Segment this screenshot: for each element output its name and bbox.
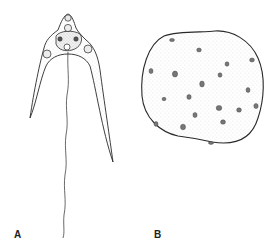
basal-body [64, 44, 70, 50]
nucleus [193, 112, 197, 117]
nucleus [237, 108, 242, 112]
nucleus [162, 97, 166, 100]
flagellum [63, 52, 68, 238]
left-nucleus [43, 50, 51, 58]
panel-label-a: A [14, 229, 21, 240]
right-dark-granule [74, 37, 78, 41]
right-nucleus [84, 45, 92, 53]
nucleus [154, 122, 158, 127]
nucleus [170, 38, 175, 41]
nucleus [250, 58, 255, 62]
nucleus [254, 103, 258, 108]
illustration [0, 0, 277, 250]
panel-label-b: B [154, 229, 161, 240]
nucleus [187, 95, 191, 100]
panel-a-organism [30, 14, 113, 238]
tip-nucleus [65, 15, 71, 21]
upper-nucleus [64, 24, 71, 31]
nucleus [225, 62, 229, 66]
nucleus [218, 73, 222, 77]
nucleus [246, 88, 250, 93]
left-dark-granule [58, 37, 62, 41]
nucleus [181, 124, 186, 130]
nucleus [208, 142, 213, 145]
nucleus [221, 120, 226, 124]
nucleus [200, 81, 205, 87]
nucleus [149, 68, 153, 73]
nucleus [172, 71, 177, 77]
panel-b-cell [142, 31, 264, 144]
nucleus [197, 48, 202, 52]
nucleus [216, 106, 222, 111]
